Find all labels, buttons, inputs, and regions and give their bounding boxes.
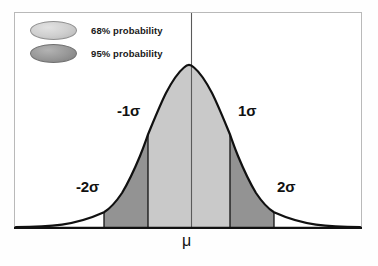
label-mean: μ bbox=[182, 232, 191, 250]
legend-entry-95: 95% probability bbox=[30, 44, 163, 63]
label-plus-1-sigma: 1σ bbox=[238, 102, 256, 119]
legend-entry-68: 68% probability bbox=[30, 21, 163, 40]
legend-label-68: 68% probability bbox=[91, 25, 163, 36]
region-68 bbox=[148, 65, 230, 228]
label-minus-1-sigma: -1σ bbox=[117, 102, 140, 119]
region-95-right bbox=[230, 135, 274, 229]
label-plus-2-sigma: 2σ bbox=[277, 178, 295, 195]
figure-canvas: 68% probability 95% probability -2σ -1σ … bbox=[0, 0, 378, 266]
legend-label-95: 95% probability bbox=[91, 48, 163, 59]
region-95-left bbox=[104, 135, 148, 229]
label-minus-2-sigma: -2σ bbox=[76, 178, 99, 195]
legend-swatch-68-icon bbox=[30, 21, 77, 40]
legend-swatch-95-icon bbox=[30, 44, 77, 63]
